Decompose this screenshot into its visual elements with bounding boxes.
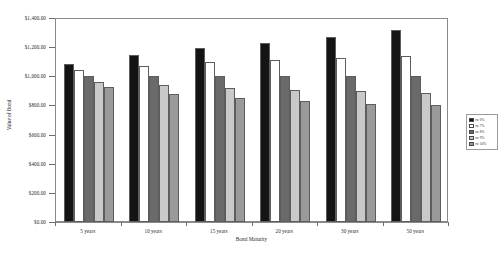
legend-swatch [469,124,474,128]
bar [149,76,159,222]
y-axis-tick-label: $1,400.00 [2,15,46,21]
legend-swatch [469,142,474,146]
bar [356,91,366,222]
bar [391,30,401,222]
bars-layer [56,18,447,222]
legend-item[interactable]: rw 9% [469,135,496,141]
y-axis-title: Value of Bond [6,80,12,150]
bar [270,60,280,222]
x-axis-tick [317,222,318,226]
bar [346,76,356,222]
bar [94,82,104,222]
x-axis-tick [186,222,187,226]
legend-label: rw 7% [475,124,484,128]
legend-label: rw 9% [475,136,484,140]
x-axis-tick-label: 30 years [341,228,358,234]
bar [421,93,431,222]
bar [280,76,290,222]
legend-swatch [469,136,474,140]
bar [235,98,245,222]
x-axis-tick-label: 15 years [210,228,227,234]
bar [225,88,235,222]
x-axis-tick-label: 20 years [276,228,293,234]
legend-label: rw 6% [475,118,484,122]
legend-label: rw 8% [475,130,484,134]
legend-item[interactable]: rw 8% [469,129,496,135]
bar [300,101,310,222]
x-axis-tick-label: 10 years [145,228,162,234]
bar [195,48,205,222]
bar [431,105,441,222]
bar [84,76,94,222]
bar [411,76,421,222]
legend-swatch [469,118,474,122]
bar [169,94,179,222]
y-axis-tick-label: $1,000.00 [2,73,46,79]
bar [260,43,270,222]
y-axis-tick-label: $400.00 [2,161,46,167]
chart-legend: rw 6%rw 7%rw 8%rw 9%rw 10% [466,114,498,150]
bar [129,55,139,222]
bar [205,62,215,222]
bar [215,76,225,222]
x-axis-tick-label: 5 years [80,228,95,234]
bar-chart: $0.00$200.00$400.00$600.00$800.00$1,000.… [0,0,502,265]
bar [326,37,336,222]
bar [336,58,346,222]
x-axis-tick [383,222,384,226]
bar [366,104,376,222]
bar [139,66,149,222]
y-axis-tick-label: $0.00 [2,219,46,225]
y-axis-tick-label: $1,200.00 [2,44,46,50]
x-axis-tick [121,222,122,226]
x-axis-tick [252,222,253,226]
x-axis-tick-label: 50 years [407,228,424,234]
bar [104,87,114,222]
legend-item[interactable]: rw 6% [469,117,496,123]
bar [74,70,84,222]
legend-item[interactable]: rw 10% [469,141,496,147]
legend-item[interactable]: rw 7% [469,123,496,129]
bar [290,90,300,222]
x-axis-tick [448,222,449,226]
x-axis-tick [55,222,56,226]
legend-label: rw 10% [475,142,486,146]
legend-swatch [469,130,474,134]
y-axis-tick-label: $200.00 [2,190,46,196]
bar [401,56,411,222]
x-axis-title: Bond Maturity [55,236,448,242]
bar [64,64,74,222]
bar [159,85,169,222]
